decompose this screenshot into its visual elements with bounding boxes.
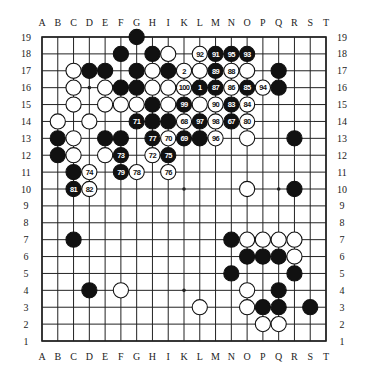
move-number: 2 <box>182 67 186 76</box>
black-stone: 97 <box>192 114 207 129</box>
stone-disc <box>113 283 128 298</box>
column-label: B <box>54 17 61 28</box>
stone-disc <box>66 165 81 180</box>
move-number: 1 <box>198 83 202 92</box>
white-stone: 80 <box>240 114 255 129</box>
black-stone <box>303 300 318 315</box>
stone-disc <box>66 97 81 112</box>
black-stone <box>145 97 160 112</box>
move-number: 69 <box>180 134 188 143</box>
row-label: 16 <box>337 82 347 93</box>
stone-disc <box>271 63 286 78</box>
black-stone <box>161 63 176 78</box>
row-label: 18 <box>21 48 31 59</box>
column-label: A <box>38 351 46 362</box>
white-stone <box>287 249 302 264</box>
stone-disc <box>129 63 144 78</box>
black-stone <box>50 131 65 146</box>
stone-disc <box>145 80 160 95</box>
stone-disc <box>271 249 286 264</box>
move-number: 80 <box>244 117 252 126</box>
stone-disc <box>240 181 255 196</box>
white-stone: 82 <box>82 181 97 196</box>
go-board: ABCDEFGHIKLMNOPQRST ABCDEFGHIKLMNOPQRST … <box>0 0 367 380</box>
black-stone: 93 <box>240 46 255 61</box>
row-label: 7 <box>24 234 29 245</box>
column-label: R <box>291 17 298 28</box>
black-stone <box>271 80 286 95</box>
stone-disc <box>66 148 81 163</box>
move-number: 73 <box>117 151 125 160</box>
row-label: 13 <box>21 133 31 144</box>
column-label: L <box>197 351 203 362</box>
white-stone <box>271 232 286 247</box>
white-stone: 68 <box>176 114 191 129</box>
row-label: 4 <box>24 285 29 296</box>
column-label: I <box>167 17 170 28</box>
move-number: 78 <box>133 168 141 177</box>
row-label: 1 <box>24 336 29 347</box>
white-stone <box>192 63 207 78</box>
move-number: 68 <box>180 117 188 126</box>
move-number: 88 <box>228 67 236 76</box>
white-stone <box>129 97 144 112</box>
stone-disc <box>255 317 270 332</box>
white-stone <box>255 232 270 247</box>
column-label: D <box>86 351 93 362</box>
stone-disc <box>98 80 113 95</box>
column-label: N <box>228 351 235 362</box>
column-label: Q <box>275 17 283 28</box>
white-stone <box>113 97 128 112</box>
stone-disc <box>224 232 239 247</box>
black-stone <box>145 114 160 129</box>
move-number: 95 <box>228 50 236 59</box>
column-label: B <box>54 351 61 362</box>
stone-disc <box>113 80 128 95</box>
black-stone: 81 <box>66 181 81 196</box>
white-stone <box>240 232 255 247</box>
move-number: 70 <box>165 134 173 143</box>
stone-disc <box>50 114 65 129</box>
move-number: 72 <box>149 151 157 160</box>
stone-disc <box>271 232 286 247</box>
black-stone <box>129 63 144 78</box>
column-label: D <box>86 17 93 28</box>
white-stone <box>161 97 176 112</box>
stone-disc <box>271 300 286 315</box>
stone-disc <box>240 63 255 78</box>
row-label: 17 <box>21 65 31 76</box>
row-label: 18 <box>337 48 347 59</box>
row-label: 14 <box>337 116 347 127</box>
white-stone: 78 <box>129 165 144 180</box>
stone-disc <box>161 97 176 112</box>
column-label: P <box>260 17 266 28</box>
black-stone: 73 <box>113 148 128 163</box>
white-stone <box>66 148 81 163</box>
white-stone <box>240 131 255 146</box>
row-label: 5 <box>340 268 345 279</box>
column-label: C <box>70 17 77 28</box>
move-number: 82 <box>86 185 94 194</box>
white-stone <box>192 97 207 112</box>
column-label: Q <box>275 351 283 362</box>
row-label: 8 <box>24 217 29 228</box>
column-label: E <box>102 351 108 362</box>
black-stone <box>271 300 286 315</box>
black-stone <box>287 131 302 146</box>
black-stone: 79 <box>113 165 128 180</box>
white-stone <box>161 80 176 95</box>
column-label: M <box>211 351 220 362</box>
black-stone <box>287 266 302 281</box>
stone-disc <box>240 131 255 146</box>
black-stone: 89 <box>208 63 223 78</box>
move-number: 77 <box>149 134 157 143</box>
column-labels-top: ABCDEFGHIKLMNOPQRST <box>38 17 329 28</box>
row-label: 7 <box>340 234 345 245</box>
stone-disc <box>255 232 270 247</box>
black-stone <box>113 46 128 61</box>
column-label: H <box>149 17 156 28</box>
column-label: K <box>180 17 188 28</box>
move-number: 76 <box>165 168 173 177</box>
black-stone: 83 <box>224 97 239 112</box>
black-stone <box>271 249 286 264</box>
